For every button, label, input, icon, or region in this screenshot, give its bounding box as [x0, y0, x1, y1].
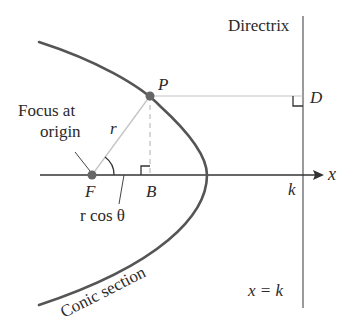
right-angle-d-icon	[293, 96, 303, 106]
x-axis-label: x	[327, 164, 336, 184]
theta-arc-icon	[105, 157, 114, 175]
point-p	[146, 92, 155, 101]
directrix-label: Directrix	[228, 16, 290, 35]
conic-section-label: Conic section	[57, 262, 149, 321]
r-cos-theta-label: r cos θ	[80, 206, 125, 225]
r-label: r	[110, 119, 117, 138]
right-angle-b-icon	[141, 166, 150, 175]
directrix-equation-label: x = k	[247, 281, 284, 300]
focus-point	[88, 171, 97, 180]
k-label: k	[288, 180, 296, 199]
point-p-label: P	[157, 75, 168, 94]
diagram-svg: Directrix P D Focus at origin r F B r co…	[0, 0, 356, 335]
rcos-leader-line	[119, 175, 124, 204]
focus-label-line2: origin	[40, 122, 81, 141]
point-b-label: B	[146, 182, 157, 201]
radius-line	[92, 96, 150, 175]
conic-curve	[39, 42, 207, 305]
focus-label-line1: Focus at	[18, 101, 75, 120]
point-f-label: F	[84, 182, 96, 201]
point-d-label: D	[309, 88, 323, 107]
focus-leader-line	[75, 152, 90, 171]
conic-section-diagram: Directrix P D Focus at origin r F B r co…	[0, 0, 356, 335]
